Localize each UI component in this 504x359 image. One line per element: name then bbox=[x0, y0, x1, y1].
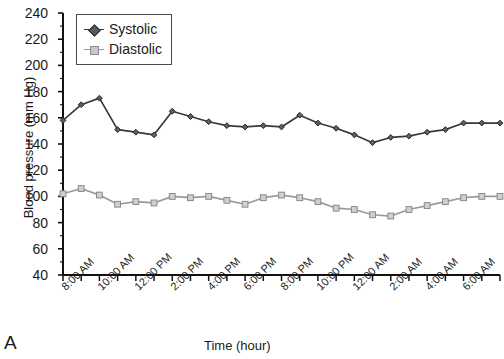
data-point-systolic bbox=[242, 124, 248, 130]
data-point-diastolic bbox=[169, 194, 175, 200]
data-point-diastolic bbox=[297, 195, 303, 201]
data-point-diastolic bbox=[151, 200, 157, 206]
data-point-systolic bbox=[442, 127, 448, 133]
data-point-systolic bbox=[497, 120, 503, 126]
data-point-systolic bbox=[406, 133, 412, 139]
data-point-systolic bbox=[315, 120, 321, 126]
data-point-diastolic bbox=[260, 195, 266, 201]
legend-label-systolic: Systolic bbox=[109, 21, 157, 37]
data-point-diastolic bbox=[388, 213, 394, 219]
legend-item-systolic: Systolic bbox=[84, 19, 162, 39]
data-point-diastolic bbox=[370, 212, 376, 218]
x-axis-title: Time (hour) bbox=[204, 338, 271, 353]
systolic-marker-icon bbox=[84, 24, 104, 34]
data-point-diastolic bbox=[78, 186, 84, 192]
data-point-systolic bbox=[333, 125, 339, 131]
data-point-diastolic bbox=[133, 199, 139, 205]
data-point-diastolic bbox=[479, 194, 485, 200]
data-point-diastolic bbox=[424, 203, 430, 209]
panel-label: A bbox=[4, 332, 17, 354]
data-point-diastolic bbox=[461, 195, 467, 201]
data-point-diastolic bbox=[60, 191, 66, 197]
y-axis-title: Blood pressure (mm Hg) bbox=[21, 38, 36, 258]
data-point-systolic bbox=[424, 129, 430, 135]
y-axis-tick-label: 40 bbox=[6, 267, 48, 283]
data-point-diastolic bbox=[188, 195, 194, 201]
data-point-diastolic bbox=[333, 205, 339, 211]
data-point-systolic bbox=[461, 120, 467, 126]
data-point-systolic bbox=[260, 123, 266, 129]
data-point-systolic bbox=[479, 120, 485, 126]
data-point-systolic bbox=[351, 132, 357, 138]
y-axis-tick-label: 240 bbox=[6, 5, 48, 21]
legend-label-diastolic: Diastolic bbox=[109, 41, 162, 57]
data-point-diastolic bbox=[406, 207, 412, 213]
data-point-diastolic bbox=[224, 197, 230, 203]
data-point-diastolic bbox=[279, 192, 285, 198]
series-line-systolic bbox=[63, 98, 500, 143]
data-point-systolic bbox=[370, 140, 376, 146]
data-point-diastolic bbox=[242, 201, 248, 207]
chart-figure: 240220200180160140120100806040 Blood pre… bbox=[0, 0, 504, 359]
data-point-systolic bbox=[206, 119, 212, 125]
data-point-systolic bbox=[188, 114, 194, 120]
chart-legend: Systolic Diastolic bbox=[76, 14, 172, 65]
data-point-diastolic bbox=[315, 199, 321, 205]
data-point-systolic bbox=[133, 129, 139, 135]
legend-item-diastolic: Diastolic bbox=[84, 39, 162, 59]
data-point-diastolic bbox=[97, 192, 103, 198]
data-point-diastolic bbox=[497, 194, 503, 200]
diastolic-marker-icon bbox=[84, 44, 104, 54]
data-point-systolic bbox=[388, 135, 394, 141]
data-point-diastolic bbox=[115, 201, 121, 207]
data-point-diastolic bbox=[206, 194, 212, 200]
data-point-systolic bbox=[224, 123, 230, 129]
data-point-diastolic bbox=[442, 199, 448, 205]
data-point-diastolic bbox=[351, 207, 357, 213]
